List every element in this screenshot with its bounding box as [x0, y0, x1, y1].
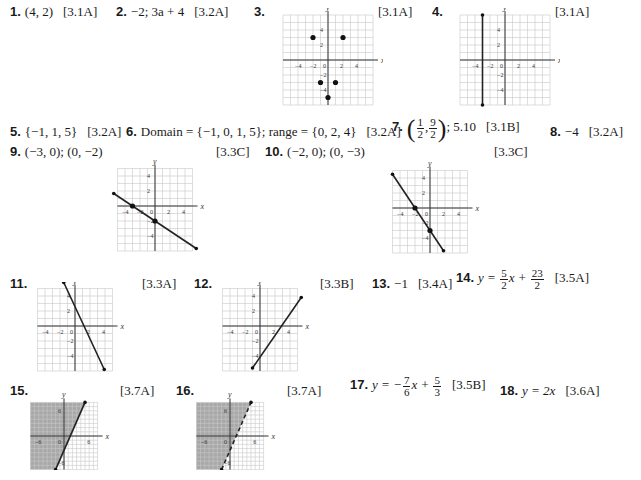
problem-number: 8.	[550, 124, 561, 139]
tick-label: 6	[58, 408, 61, 414]
tick-label: −4	[147, 233, 153, 239]
tick-label: 2	[517, 63, 520, 69]
y-axis-label: y	[72, 282, 77, 286]
tick-label: 4	[252, 293, 255, 299]
answer-15-section: [3.7A]	[120, 383, 154, 399]
y-axis-label: y	[502, 8, 507, 12]
answer-9: 9.(−3, 0); (0, −2)	[10, 144, 103, 160]
section-ref: [3.6A]	[565, 383, 599, 398]
y-axis-label: y	[257, 282, 262, 286]
answer-16-label: 16.	[176, 383, 198, 399]
graph-9: xy−4−202442−2−4	[110, 158, 210, 258]
arrow-head	[194, 247, 198, 251]
tick-label: 4	[497, 27, 500, 33]
tick-label: 0	[70, 329, 73, 335]
arrow-head	[481, 13, 485, 17]
data-point	[333, 80, 338, 85]
x-axis-label: x	[305, 322, 310, 331]
answer-17: 17.y = −76x + 53[3.5B]	[350, 375, 486, 398]
x-axis-label: x	[200, 202, 205, 211]
answer-1: 1.(4, 2)[3.1A]	[10, 4, 97, 20]
tick-label: −4	[227, 329, 233, 335]
problem-number: 14.	[456, 270, 474, 285]
arrow-head	[391, 172, 395, 176]
answer-13: 13.−1[3.4A]	[372, 276, 452, 292]
answer-10-section: [3.3C]	[494, 144, 528, 160]
tick-label: −6	[224, 460, 230, 466]
section-ref: [3.5B]	[452, 377, 486, 392]
tick-label: −6	[201, 439, 207, 445]
y-axis-label: y	[427, 159, 432, 168]
arrow-head	[112, 192, 116, 196]
section-ref: [3.2A]	[194, 4, 228, 19]
data-point	[340, 35, 345, 40]
tick-label: 4	[102, 329, 105, 335]
tick-label: 0	[224, 439, 227, 445]
tick-label: −2	[320, 72, 326, 78]
tick-label: 6	[224, 408, 227, 414]
tick-label: −4	[472, 63, 478, 69]
fraction: 12	[417, 117, 425, 140]
answer-3-label: 3.	[254, 4, 269, 20]
x-axis-label: x	[105, 432, 110, 441]
problem-number: 1.	[10, 4, 21, 19]
tick-label: 4	[355, 63, 358, 69]
answer-6: 6.Domain = {−1, 0, 1, 5}; range = {0, 2,…	[126, 124, 401, 140]
tick-label: −4	[67, 353, 73, 359]
tick-label: −2	[487, 63, 493, 69]
problem-number: 4.	[432, 4, 443, 19]
tick-label: 2	[320, 42, 323, 48]
section-ref: [3.1B]	[486, 119, 520, 134]
answer-text: {−1, 1, 5}	[25, 124, 77, 139]
section-ref: [3.1A]	[63, 4, 97, 19]
tick-label: 4	[422, 175, 425, 181]
answer-16-section: [3.7A]	[287, 383, 321, 399]
arrow-head	[102, 368, 106, 372]
answer-text: (−3, 0); (0, −2)	[25, 144, 103, 159]
y-axis-label: y	[227, 392, 232, 399]
answer-text: Domain = {−1, 0, 1, 5}; range = {0, 2, 4…	[141, 124, 357, 139]
section-ref: [3.2A]	[589, 124, 623, 139]
tick-label: 4	[320, 27, 323, 33]
graph-16: xy−6066−6	[196, 392, 276, 470]
tick-label: −2	[57, 329, 63, 335]
tick-label: −2	[252, 338, 258, 344]
tick-label: 4	[457, 211, 460, 217]
graph-12: xy−4−202442−2−4	[215, 282, 315, 378]
answer-3-section: [3.1A]	[378, 4, 412, 20]
tick-label: −4	[122, 209, 128, 215]
tick-label: −6	[58, 460, 64, 466]
answer-4-section: [3.1A]	[555, 4, 589, 20]
answer-15-label: 15.	[10, 383, 32, 399]
answer-11-label: 11.	[10, 276, 31, 292]
tick-label: −2	[67, 338, 73, 344]
tick-label: 4	[532, 63, 535, 69]
problem-number: 5.	[10, 124, 21, 139]
data-point	[412, 205, 417, 210]
problem-number: 2.	[116, 4, 127, 19]
arrow-head	[481, 103, 485, 107]
tick-label: 0	[323, 63, 326, 69]
arrow-head	[442, 249, 446, 253]
tick-label: 2	[167, 209, 170, 215]
problem-number: 17.	[350, 377, 368, 392]
arrow-head	[251, 366, 255, 370]
tick-label: 6	[253, 439, 256, 445]
answer-text: (−2, 0); (0, −3)	[287, 144, 365, 159]
answer-18: 18.y = 2x[3.6A]	[500, 383, 600, 399]
graph-3: xy−4−202442−2−4	[268, 8, 383, 110]
tick-label: 2	[340, 63, 343, 69]
answer-14: 14.y = 52x + 232[3.5A]	[456, 268, 589, 291]
fraction: 92	[429, 117, 437, 140]
data-point	[427, 228, 432, 233]
answer-5: 5.{−1, 1, 5}[3.2A]	[10, 124, 121, 140]
arrow-head	[249, 401, 253, 405]
tick-label: 2	[442, 211, 445, 217]
x-axis-label: x	[557, 56, 560, 65]
x-axis-label: x	[380, 56, 383, 65]
tick-label: 4	[147, 173, 150, 179]
y-axis-label: y	[152, 158, 157, 166]
graph-15: xy−6066−6	[30, 392, 110, 470]
problem-number: 6.	[126, 124, 137, 139]
answer-7: 7.(12,92); 5.10[3.1B]	[392, 117, 520, 140]
